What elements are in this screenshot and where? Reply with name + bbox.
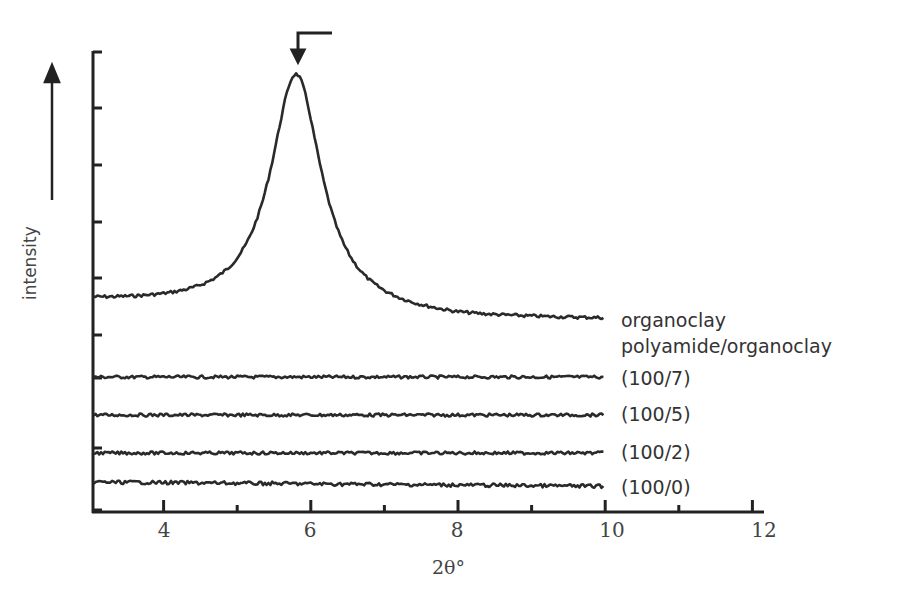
legend-100-7: (100/7) <box>621 369 691 388</box>
legend-group-label: polyamide/organoclay <box>621 337 832 356</box>
x-tick-label: 6 <box>304 518 317 542</box>
x-tick-label: 10 <box>599 518 624 542</box>
x-axis-label: 2θ° <box>432 556 465 578</box>
legend-100-5: (100/5) <box>621 405 691 424</box>
series-1005 <box>94 414 604 417</box>
x-tick-label: 8 <box>451 518 464 542</box>
peak-marker-icon <box>292 33 332 62</box>
x-tick-label: 12 <box>751 518 776 542</box>
series-1007 <box>94 376 604 379</box>
y-axis-label: intensity <box>20 226 40 300</box>
legend-organoclay: organoclay <box>621 311 726 330</box>
legend-100-0: (100/0) <box>621 478 691 497</box>
intensity-arrow-icon <box>45 65 59 200</box>
xrd-chart <box>0 0 898 601</box>
curves <box>94 73 604 488</box>
series-organoclay <box>94 73 604 319</box>
series-1000 <box>94 481 604 488</box>
x-ticks <box>164 500 753 512</box>
legend-100-2: (100/2) <box>621 443 691 462</box>
x-tick-label: 4 <box>158 518 171 542</box>
series-1002 <box>94 452 604 455</box>
